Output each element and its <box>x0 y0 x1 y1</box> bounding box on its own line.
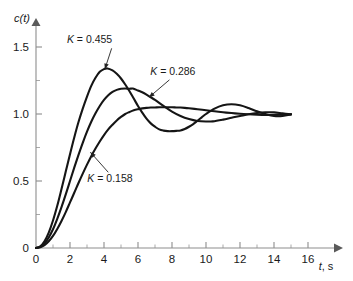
y-tick-label: 0 <box>23 242 29 254</box>
y-axis-ticks <box>36 47 42 215</box>
x-tick-label: 10 <box>200 253 213 265</box>
x-tick-label: 14 <box>268 253 281 265</box>
y-tick-label: 1.0 <box>13 108 29 120</box>
x-tick-label: 4 <box>101 253 108 265</box>
annotation-label-0_455: K = 0.455 <box>67 33 112 45</box>
x-axis-ticks <box>53 242 308 248</box>
x-tick-label: 2 <box>67 253 73 265</box>
y-axis-arrowhead <box>32 18 41 26</box>
annotation-label-0_158: K = 0.158 <box>87 172 132 184</box>
y-tick-label: 0.5 <box>13 175 29 187</box>
y-axis-label: c(t) <box>14 12 30 24</box>
figure-step-response: 0246810121416 00.51.01.5 K = 0.455K = 0.… <box>0 0 353 281</box>
curve-group <box>36 68 291 248</box>
x-tick-label: 8 <box>169 253 175 265</box>
y-tick-label: 1.5 <box>13 41 29 53</box>
annotation-label-0_286: K = 0.286 <box>150 65 195 77</box>
chart-canvas: 0246810121416 00.51.01.5 K = 0.455K = 0.… <box>0 0 353 281</box>
response-curve-0_286 <box>36 88 291 248</box>
x-tick-label: 6 <box>135 253 141 265</box>
x-tick-label: 16 <box>302 253 315 265</box>
x-axis-arrowhead <box>334 244 343 253</box>
response-curve-0_455 <box>36 68 291 248</box>
x-tick-label: 12 <box>234 253 247 265</box>
x-axis-label: t, s <box>319 260 334 272</box>
y-axis-tick-labels: 00.51.01.5 <box>13 41 29 254</box>
x-tick-label: 0 <box>33 253 39 265</box>
x-axis-tick-labels: 0246810121416 <box>33 253 315 265</box>
response-curve-0_158 <box>36 107 291 248</box>
